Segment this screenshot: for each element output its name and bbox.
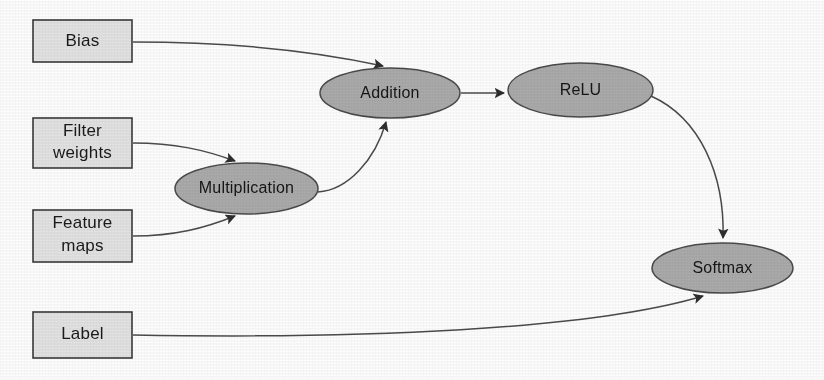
edge-label-to-softmax — [133, 296, 703, 336]
node-feature-maps-label-line1: Feature — [53, 213, 113, 232]
node-multiplication-label: Multiplication — [199, 179, 294, 196]
node-addition[interactable]: Addition — [320, 68, 460, 118]
operation-node-layer: Multiplication Addition ReLU Softmax — [175, 63, 793, 293]
node-filter-weights-label-line1: Filter — [63, 121, 102, 140]
node-feature-maps[interactable]: Feature maps — [33, 210, 132, 262]
edge-relu-to-softmax — [651, 96, 723, 238]
node-addition-label: Addition — [360, 84, 419, 101]
node-feature-maps-label-line2: maps — [61, 236, 103, 255]
node-filter-weights[interactable]: Filter weights — [33, 118, 132, 168]
node-relu[interactable]: ReLU — [508, 63, 653, 117]
node-filter-weights-label-line2: weights — [52, 143, 112, 162]
computation-graph-diagram: Bias Filter weights Feature maps Label M — [0, 0, 824, 380]
node-label-label: Label — [61, 324, 104, 343]
edge-multiplication-to-addition — [318, 122, 386, 192]
node-bias-label: Bias — [66, 31, 100, 50]
node-relu-label: ReLU — [560, 81, 602, 98]
node-bias[interactable]: Bias — [33, 20, 132, 62]
node-multiplication[interactable]: Multiplication — [175, 163, 318, 214]
node-softmax[interactable]: Softmax — [652, 243, 793, 293]
node-label[interactable]: Label — [33, 312, 132, 358]
edge-bias-to-addition — [133, 42, 383, 66]
input-node-layer: Bias Filter weights Feature maps Label — [33, 20, 132, 358]
edge-feature-maps-to-multiplication — [133, 216, 235, 236]
graph-canvas: Bias Filter weights Feature maps Label M — [0, 0, 824, 380]
edge-filter-weights-to-multiplication — [133, 143, 235, 161]
node-softmax-label: Softmax — [692, 259, 752, 276]
